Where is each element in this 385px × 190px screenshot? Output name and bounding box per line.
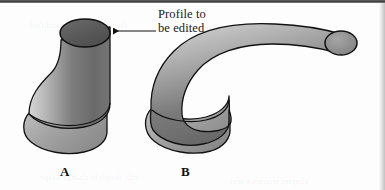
shape-b-group[interactable] (145, 24, 357, 153)
shape-a-group[interactable] (24, 19, 110, 154)
part-label-b: B (181, 164, 190, 180)
shape-b-end-cap-ellipse[interactable] (325, 31, 357, 55)
shape-a-profile-ellipse[interactable] (60, 19, 110, 47)
part-label-a: A (60, 164, 70, 180)
callout-label-line2: be edited (158, 22, 204, 36)
shape-b-tube (150, 24, 345, 146)
page-edge-shadow (379, 3, 385, 190)
callout-label-line1: Profile to (158, 8, 206, 22)
figure-container: the profile can be modified after the fe… (0, 0, 385, 190)
